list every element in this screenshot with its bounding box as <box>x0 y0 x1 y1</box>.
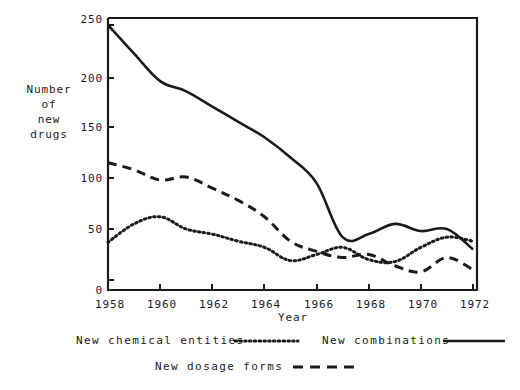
x-tick-label: 1962 <box>199 298 229 311</box>
y-tick-label: 50 <box>88 223 103 236</box>
x-tick-label: 1964 <box>251 298 281 311</box>
x-tick-label: 1966 <box>304 298 334 311</box>
x-tick-label: 1972 <box>460 298 490 311</box>
y-tick-label: 200 <box>80 72 103 85</box>
y-axis-title-line: drugs <box>30 128 68 141</box>
x-axis-tick-labels: 1958 1960 1962 1964 1966 1968 1970 1972 <box>95 298 490 311</box>
x-axis-title: Year <box>278 311 308 324</box>
legend-label-combinations: New combinations <box>322 334 450 347</box>
y-tick-label: 250 <box>80 13 103 26</box>
y-axis-title-line: new <box>38 113 61 126</box>
y-tick-label: 100 <box>80 172 103 185</box>
y-axis-title-line: Number <box>26 83 71 96</box>
x-tick-label: 1970 <box>408 298 438 311</box>
plot-frame <box>108 18 477 290</box>
x-tick-label: 1960 <box>147 298 177 311</box>
legend-label-dosage-forms: New dosage forms <box>155 360 283 373</box>
y-axis-title: Number of new drugs <box>26 83 71 141</box>
y-tick-label: 150 <box>80 121 103 134</box>
x-tick-label: 1968 <box>356 298 386 311</box>
series-line-new-combinations <box>108 25 473 249</box>
chart-figure: 0 50 100 150 200 250 1958 1960 1962 1964… <box>0 0 520 390</box>
series-group <box>108 25 473 272</box>
chart-legend: New chemical entities New combinations N… <box>76 334 505 373</box>
chart-canvas: 0 50 100 150 200 250 1958 1960 1962 1964… <box>0 0 520 390</box>
y-axis-title-line: of <box>41 98 56 111</box>
x-tick-label: 1958 <box>95 298 125 311</box>
y-axis-tick-labels: 0 50 100 150 200 250 <box>80 13 103 297</box>
legend-label-chemical-entities: New chemical entities <box>76 334 244 347</box>
y-tick-label: 0 <box>95 284 103 297</box>
series-line-new-chemical-entities <box>108 217 473 263</box>
